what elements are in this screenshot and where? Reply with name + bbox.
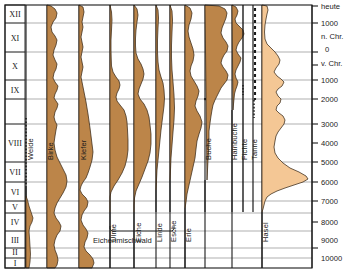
curve-label-linde: Linde — [155, 223, 164, 242]
time-label-5000: 5000 — [321, 158, 338, 167]
time-label-nchr: n. Chr. — [321, 32, 343, 41]
time-label-heute: heute — [321, 2, 340, 11]
curve-label-erle: Erle — [184, 228, 193, 242]
pollen-diagram-svg: XII XI X IX VIII VII VI V IV III II I We… — [0, 0, 348, 272]
curve-label-fichte: Fichte — [240, 139, 249, 160]
zone-label-ii: II — [12, 248, 18, 257]
time-label-3000: 3000 — [321, 120, 338, 129]
group-label-eichenmischwald: Eichenmischwald — [93, 236, 152, 245]
zone-label-i: I — [14, 259, 17, 268]
time-label-8000: 8000 — [321, 218, 338, 227]
time-label-9000: 9000 — [321, 236, 338, 245]
zone-label-viii: VIII — [8, 139, 22, 148]
zone-label-x: X — [12, 62, 18, 71]
time-label-10000: 10000 — [321, 254, 342, 263]
zone-label-vii: VII — [9, 168, 21, 177]
time-label-7000: 7000 — [321, 197, 338, 206]
time-label-1000ad: 1000 — [321, 19, 338, 28]
time-label-vchr: v. Chr. — [321, 59, 342, 68]
curve-label-kiefer: Kiefer — [79, 139, 88, 160]
zone-label-xii: XII — [9, 10, 21, 19]
zone-label-vi: VI — [11, 188, 20, 197]
time-label-4000: 4000 — [321, 139, 338, 148]
zone-label-ix: IX — [11, 86, 20, 95]
time-label-2000: 2000 — [321, 95, 338, 104]
curve-label-hasel: Hasel — [261, 222, 270, 242]
time-label-6000: 6000 — [321, 178, 338, 187]
curve-label-birke: Birke — [46, 142, 55, 160]
zone-label-v: V — [12, 203, 18, 212]
zone-label-xi: XI — [11, 34, 20, 43]
time-label-zero: 0 — [325, 45, 329, 54]
zone-label-iii: III — [11, 236, 19, 245]
curve-label-tanne: Tanne — [250, 139, 259, 160]
curve-label-weide: Weide — [26, 138, 35, 160]
curve-label-hainbuche: Hainbuche — [230, 123, 239, 160]
curve-label-buche: Buche — [204, 138, 213, 160]
zone-label-iv: IV — [11, 218, 20, 227]
time-label-1000bc: 1000 — [321, 76, 338, 85]
pollen-diagram: XII XI X IX VIII VII VI V IV III II I We… — [0, 0, 348, 272]
